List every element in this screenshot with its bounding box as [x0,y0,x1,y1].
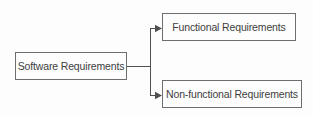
node-non-functional-requirements: Non-functional Requirements [162,80,302,108]
node-non-functional-requirements-label: Non-functional Requirements [166,88,298,100]
arrowhead-top-icon [155,25,162,32]
node-functional-requirements-label: Functional Requirements [172,21,285,33]
node-software-requirements-label: Software Requirements [18,60,125,72]
node-functional-requirements: Functional Requirements [162,13,296,41]
requirements-diagram: Software Requirements Functional Require… [0,0,313,116]
arrowhead-bottom-icon [155,92,162,99]
node-software-requirements: Software Requirements [15,52,127,80]
